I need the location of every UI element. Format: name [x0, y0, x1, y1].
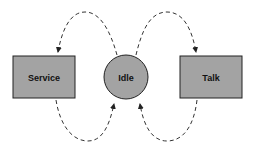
node-service-label: Service — [28, 73, 60, 83]
node-service: Service — [13, 56, 75, 98]
edge-talk-to-idle — [140, 100, 197, 141]
edge-service-to-idle — [56, 100, 114, 141]
edge-idle-to-service — [58, 12, 117, 55]
node-talk-label: Talk — [202, 73, 220, 83]
node-idle-label: Idle — [118, 73, 134, 83]
state-diagram: Service Idle Talk — [0, 0, 254, 150]
edge-idle-to-talk — [136, 12, 196, 55]
node-idle: Idle — [104, 55, 148, 99]
node-talk: Talk — [180, 56, 242, 98]
